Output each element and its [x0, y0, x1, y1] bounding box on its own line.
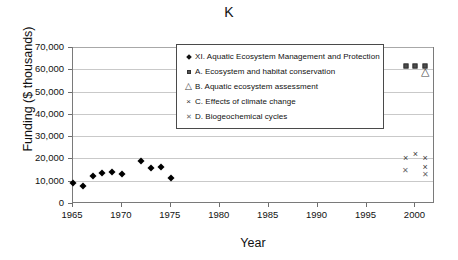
chart-container: K Funding ($ thousands) 010,00020,00030,… — [0, 0, 458, 260]
x-tick-mark — [72, 203, 73, 207]
x-tick-label: 1975 — [150, 209, 190, 220]
x-tick-label: 1980 — [199, 209, 239, 220]
legend-x-cross-icon: × — [182, 95, 195, 108]
legend-item-label: C. Effects of climate change — [195, 97, 296, 106]
x-tick-mark — [366, 203, 367, 207]
x-tick-label: 1970 — [101, 209, 141, 220]
legend-x-cross-small-icon: ✕ — [182, 110, 195, 123]
x-tick-mark — [268, 203, 269, 207]
legend-item-label: XI. Aquatic Ecosystem Management and Pro… — [195, 52, 380, 61]
legend-item-label: B. Aquatic ecosystem assessment — [195, 82, 318, 91]
x-tick-label: 1965 — [52, 209, 92, 220]
legend-open-triangle-icon: △ — [182, 80, 195, 93]
legend-item-label: D. Biogeochemical cycles — [195, 112, 287, 121]
x-tick-mark — [170, 203, 171, 207]
legend-item[interactable]: ×C. Effects of climate change — [182, 94, 378, 109]
x-tick-mark — [219, 203, 220, 207]
x-tick-mark — [414, 203, 415, 207]
legend-filled-square-icon — [182, 65, 195, 78]
x-tick-mark — [317, 203, 318, 207]
legend-item[interactable]: A. Ecosystem and habitat conservation — [182, 64, 378, 79]
chart-legend: XI. Aquatic Ecosystem Management and Pro… — [176, 44, 384, 129]
legend-item[interactable]: △B. Aquatic ecosystem assessment — [182, 79, 378, 94]
x-tick-mark — [121, 203, 122, 207]
x-axis-label: Year — [72, 236, 434, 250]
x-axis-ticks: 19651970197519801985199019952000 — [0, 0, 458, 260]
x-tick-label: 2000 — [394, 209, 434, 220]
legend-item[interactable]: XI. Aquatic Ecosystem Management and Pro… — [182, 49, 378, 64]
legend-filled-diamond-icon — [182, 50, 195, 63]
x-tick-label: 1985 — [248, 209, 288, 220]
legend-item-label: A. Ecosystem and habitat conservation — [195, 67, 335, 76]
x-tick-label: 1995 — [346, 209, 386, 220]
legend-item[interactable]: ✕D. Biogeochemical cycles — [182, 109, 378, 124]
x-tick-label: 1990 — [297, 209, 337, 220]
